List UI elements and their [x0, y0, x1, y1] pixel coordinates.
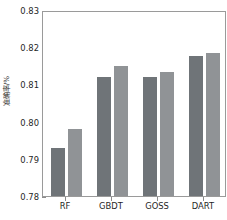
bar-goss-series-1 [143, 77, 157, 196]
y-axis-tick-label: 0.81 [5, 80, 39, 90]
bar-goss-series-2 [160, 72, 174, 196]
bar-rf-series-1 [51, 148, 65, 196]
plot-area [42, 11, 226, 197]
y-axis-tick-label: 0.78 [5, 192, 39, 202]
bar-chart-figure: 准确率/% 0.780.790.800.810.820.83 RFGBDTGOS… [0, 0, 227, 220]
bar-dart-series-2 [206, 53, 220, 196]
x-axis-tick-label-gbdt: GBDT [99, 201, 123, 211]
y-axis-tick-label: 0.79 [5, 155, 39, 165]
bar-gbdt-series-1 [97, 77, 111, 196]
y-axis-tick-label: 0.83 [5, 6, 39, 16]
y-axis-title: 准确率/% [1, 69, 11, 113]
y-axis-tick-label: 0.80 [5, 118, 39, 128]
y-axis-tick-label: 0.82 [5, 43, 39, 53]
y-axis-tick-mark [42, 197, 46, 198]
x-axis-tick-label-dart: DART [192, 201, 214, 211]
bar-gbdt-series-2 [114, 66, 128, 196]
bar-rf-series-2 [68, 129, 82, 196]
x-axis-tick-label-goss: GOSS [145, 201, 169, 211]
x-axis-tick-label-rf: RF [60, 201, 71, 211]
bar-dart-series-1 [189, 56, 203, 196]
